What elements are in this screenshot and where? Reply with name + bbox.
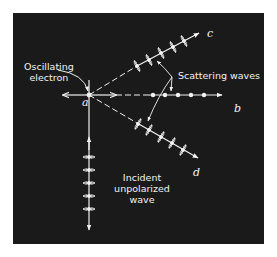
scattering-diagram: [0, 0, 277, 257]
scattered-ray-c: [89, 33, 199, 95]
scattered-ray-d: [89, 95, 198, 158]
scattered-ray-b: [116, 93, 222, 97]
scattering-pointer-arrows: [148, 61, 172, 121]
scattering-waves-label: Scattering waves: [178, 70, 260, 81]
ray-c-label: c: [207, 28, 213, 39]
incident-wave-label: Incident unpolarized wave: [112, 172, 172, 205]
oscillating-electron-label: Oscillating electron: [24, 61, 74, 83]
point-a-label: a: [82, 97, 89, 108]
ray-b-label: b: [234, 103, 241, 114]
ray-d-label: d: [193, 167, 200, 178]
